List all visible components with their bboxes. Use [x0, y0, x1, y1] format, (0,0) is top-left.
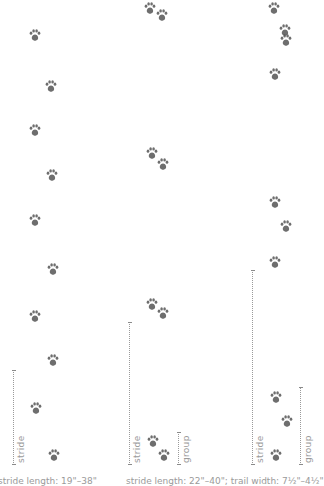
caption-left: stride length: 19"–38" [0, 476, 97, 486]
measure-line [252, 270, 253, 465]
paw-print-icon [30, 402, 42, 415]
measure-cap [299, 464, 303, 465]
paw-print-icon [147, 435, 159, 448]
paw-print-icon [29, 310, 41, 323]
paw-print-icon [29, 214, 41, 227]
paw-print-icon [269, 68, 281, 81]
stride-measure: stride [13, 370, 21, 465]
paw-print-icon [47, 354, 59, 367]
paw-print-icon [46, 169, 58, 182]
paw-print-icon [157, 307, 169, 320]
measure-label: stride [132, 436, 142, 463]
measure-cap [12, 464, 16, 465]
paw-print-icon [269, 256, 281, 269]
paw-print-icon [268, 2, 280, 15]
measure-cap [128, 464, 132, 465]
paw-print-icon [48, 449, 60, 462]
stride-measure: stride [129, 322, 137, 465]
measure-line [13, 370, 14, 465]
measure-line [178, 432, 179, 465]
measure-label: stride [16, 436, 26, 463]
paw-print-icon [29, 124, 41, 137]
measure-cap [251, 270, 255, 271]
measure-label: group [181, 435, 191, 463]
paw-print-icon [45, 80, 57, 93]
measure-cap [12, 370, 16, 371]
paw-print-icon [270, 449, 282, 462]
measure-label: group [303, 435, 313, 463]
caption-right: stride length: 22"–40"; trail width: 7½"… [126, 476, 324, 486]
group-measure: group [178, 432, 186, 465]
measure-cap [128, 322, 132, 323]
paw-print-icon [47, 263, 59, 276]
measure-label: stride [255, 436, 265, 463]
paw-print-icon [270, 391, 282, 404]
paw-print-icon [29, 29, 41, 42]
paw-print-icon [157, 158, 169, 171]
measure-cap [299, 387, 303, 388]
stride-measure: stride [252, 270, 260, 465]
paw-print-icon [144, 2, 156, 15]
paw-print-icon [280, 34, 292, 47]
paw-print-icon [158, 449, 170, 462]
measure-cap [251, 464, 255, 465]
paw-print-icon [269, 196, 281, 209]
measure-cap [177, 432, 181, 433]
measure-line [300, 387, 301, 465]
measure-line [129, 322, 130, 465]
paw-print-icon [280, 220, 292, 233]
paw-print-icon [156, 9, 168, 22]
group-measure: group [300, 387, 308, 465]
paw-print-icon [281, 415, 293, 428]
measure-cap [177, 464, 181, 465]
